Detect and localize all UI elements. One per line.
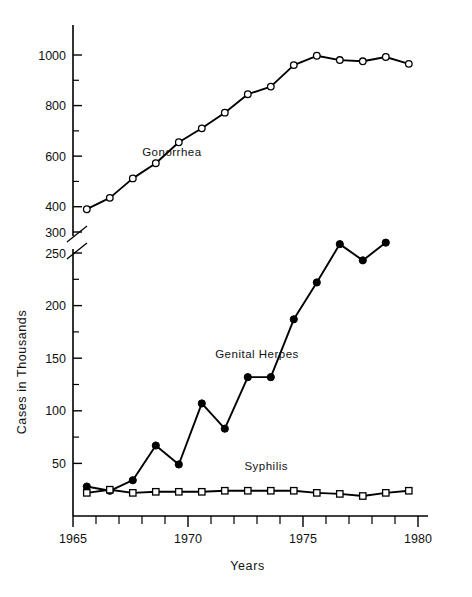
y-tick-label: 800 xyxy=(45,99,66,113)
data-point-marker xyxy=(221,425,228,432)
line-chart: 3004006008001000501001502002501965197019… xyxy=(0,0,472,597)
data-point-marker xyxy=(406,61,413,68)
x-tick-label: 1980 xyxy=(404,532,432,546)
y-axis-title: Cases in Thousands xyxy=(15,310,29,435)
data-point-marker xyxy=(336,241,343,248)
series-line xyxy=(87,56,409,209)
data-point-marker xyxy=(175,461,182,468)
data-point-marker xyxy=(84,206,91,213)
data-point-marker xyxy=(268,488,274,494)
data-point-marker xyxy=(359,257,366,264)
data-point-marker xyxy=(153,160,160,167)
data-point-marker xyxy=(290,316,297,323)
data-point-marker xyxy=(382,239,389,246)
y-tick-label: 100 xyxy=(45,404,66,418)
data-point-marker xyxy=(314,52,321,59)
data-point-marker xyxy=(291,62,298,69)
data-point-marker xyxy=(152,442,159,449)
data-point-marker xyxy=(383,54,390,61)
data-point-marker xyxy=(199,489,205,495)
y-tick-label: 150 xyxy=(45,352,66,366)
data-point-marker xyxy=(406,488,412,494)
data-point-marker xyxy=(153,489,159,495)
data-point-marker xyxy=(337,57,344,64)
data-point-marker xyxy=(267,374,274,381)
y-tick-label: 200 xyxy=(45,299,66,313)
data-point-marker xyxy=(198,400,205,407)
data-point-marker xyxy=(222,109,229,116)
y-tick-label: 600 xyxy=(45,150,66,164)
data-point-marker xyxy=(244,374,251,381)
data-point-marker xyxy=(107,487,113,493)
x-tick-label: 1975 xyxy=(289,532,317,546)
series-line xyxy=(87,243,386,491)
series-label-genital-herpes: Genital Herpes xyxy=(215,348,299,360)
data-point-marker xyxy=(176,489,182,495)
data-point-marker xyxy=(337,491,343,497)
data-point-marker xyxy=(176,139,183,146)
y-tick-label: 50 xyxy=(52,457,66,471)
x-tick-label: 1965 xyxy=(59,532,87,546)
data-point-marker xyxy=(130,175,137,182)
data-point-marker xyxy=(383,490,389,496)
data-point-marker xyxy=(129,477,136,484)
data-point-marker xyxy=(360,493,366,499)
data-point-marker xyxy=(199,125,206,132)
data-point-marker xyxy=(222,488,228,494)
data-point-marker xyxy=(291,488,297,494)
series-label-gonorrhea: Gonorrhea xyxy=(142,146,202,158)
data-point-marker xyxy=(313,279,320,286)
data-point-marker xyxy=(130,490,136,496)
series-label-syphilis: Syphilis xyxy=(244,460,288,472)
x-tick-label: 1970 xyxy=(174,532,202,546)
data-point-marker xyxy=(245,91,252,98)
x-axis-title: Years xyxy=(230,559,265,573)
series-genital-herpes: Genital Herpes xyxy=(83,239,389,494)
data-series: GonorrheaGenital HerpesSyphilis xyxy=(83,52,412,499)
chart-figure: 3004006008001000501001502002501965197019… xyxy=(0,0,472,597)
data-point-marker xyxy=(107,195,114,202)
y-tick-label: 300 xyxy=(45,226,66,240)
series-gonorrhea: Gonorrhea xyxy=(84,52,413,212)
axes: 3004006008001000501001502002501965197019… xyxy=(38,25,432,546)
y-tick-label: 400 xyxy=(45,200,66,214)
y-tick-label: 250 xyxy=(45,247,66,261)
data-point-marker xyxy=(245,488,251,494)
data-point-marker xyxy=(268,83,275,90)
y-tick-label: 1000 xyxy=(38,49,66,63)
data-point-marker xyxy=(360,58,367,65)
data-point-marker xyxy=(84,490,90,496)
data-point-marker xyxy=(314,490,320,496)
